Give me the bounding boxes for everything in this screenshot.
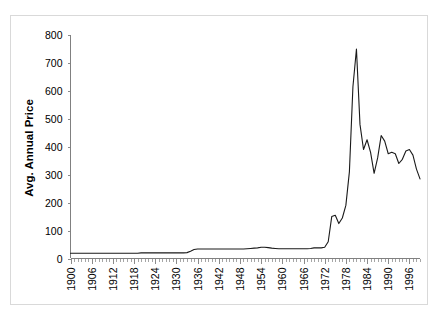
x-tick-label: 1972 (319, 267, 331, 291)
x-tick-label: 1906 (86, 267, 98, 291)
y-tick-label: 200 (45, 197, 63, 209)
y-tick-label: 100 (45, 225, 63, 237)
x-tick-label: 1960 (276, 267, 288, 291)
x-tick-label: 1912 (107, 267, 119, 291)
y-tick-label: 700 (45, 57, 63, 69)
y-tick-label: 800 (45, 29, 63, 41)
x-tick-label: 1930 (170, 267, 182, 291)
y-axis-ticks: 0100200300400500600700800 (45, 29, 71, 265)
series-line-avg-annual-price (71, 49, 421, 253)
x-tick-label: 1966 (298, 267, 310, 291)
data-series-group (71, 49, 421, 253)
x-tick-label: 1948 (234, 267, 246, 291)
line-chart-plot: Avg. Annual Price 0100200300400500600700… (0, 0, 438, 320)
x-tick-label: 1918 (128, 267, 140, 291)
x-tick-label: 1990 (382, 267, 394, 291)
axis-lines (71, 35, 421, 259)
x-tick-label: 1954 (255, 267, 267, 291)
y-tick-label: 500 (45, 113, 63, 125)
x-tick-label: 1900 (65, 267, 77, 291)
y-axis-title: Avg. Annual Price (23, 99, 35, 197)
chart-container: Avg. Annual Price 0100200300400500600700… (0, 0, 438, 320)
x-tick-label: 1996 (403, 267, 415, 291)
x-tick-label: 1984 (361, 267, 373, 291)
x-axis-ticks: 1900190619121918192419301936194219481954… (65, 259, 421, 291)
y-tick-label: 300 (45, 169, 63, 181)
y-tick-label: 400 (45, 141, 63, 153)
x-tick-label: 1936 (192, 267, 204, 291)
y-tick-label: 600 (45, 85, 63, 97)
x-tick-label: 1978 (340, 267, 352, 291)
y-axis-title-group: Avg. Annual Price (23, 99, 35, 197)
y-tick-label: 0 (57, 253, 63, 265)
x-tick-label: 1924 (149, 267, 161, 291)
x-tick-label: 1942 (213, 267, 225, 291)
